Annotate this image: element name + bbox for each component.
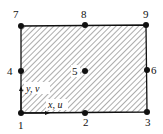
x-axis-label: x, u [47,99,62,110]
node-2-label: 2 [83,116,89,128]
node-5-dot [82,68,88,74]
node-6-dot [144,67,150,73]
node-7-dot [18,23,24,29]
node-8-dot [82,22,88,28]
element-diagram: y, v x, u 123456789 [0,0,163,134]
node-6-label: 6 [151,64,157,76]
node-4-dot [18,68,24,74]
node-3-label: 3 [145,116,151,128]
node-3-dot [144,109,150,115]
node-9-dot [143,22,149,28]
node-8-label: 8 [81,8,87,20]
node-1-dot [18,110,24,116]
node-7-label: 7 [13,8,19,20]
y-axis-label: y, v [25,83,40,94]
node-4-label: 4 [7,65,13,77]
node-9-label: 9 [143,8,149,20]
node-5-label: 5 [72,65,78,77]
node-1-label: 1 [18,119,24,131]
